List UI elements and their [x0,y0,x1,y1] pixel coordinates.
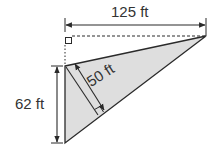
triangle-diagram: 125 ft 62 ft 50 ft [0,0,220,156]
triangle-shape [65,36,206,143]
top-width-label: 125 ft [111,4,149,19]
right-angle-mark-top [66,38,72,44]
left-side-label: 62 ft [15,96,44,111]
